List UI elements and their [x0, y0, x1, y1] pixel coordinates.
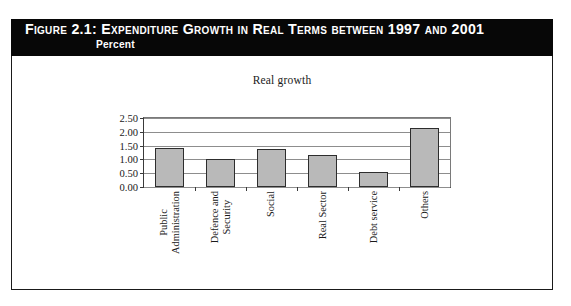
figure-root: Figure 2.1: Expenditure Growth in Real T…	[0, 0, 571, 306]
x-axis-label-slot: Defence andSecurity	[194, 189, 245, 289]
x-axis-label-slot: PublicAdministration	[143, 189, 194, 289]
x-axis-label-line: Real Sector	[317, 191, 328, 239]
chart-title: Real growth	[11, 74, 553, 86]
bar[interactable]	[206, 159, 235, 187]
y-axis-tick-label: 2.50	[119, 113, 138, 124]
plot-area: 0.000.501.001.502.002.50	[143, 117, 451, 188]
chart-area: Real growth 0.000.501.001.502.002.50 Pub…	[11, 56, 553, 290]
x-axis-label-line: Debt service	[368, 191, 379, 243]
x-axis-label: Defence andSecurity	[208, 191, 231, 243]
y-axis-tick-label: 1.50	[119, 140, 138, 151]
bar-slot	[246, 118, 297, 187]
bar-slot	[399, 118, 450, 187]
bar-slot	[195, 118, 246, 187]
x-axis-label-line: Social	[266, 191, 277, 217]
y-axis-tick-label: 0.00	[119, 182, 138, 193]
x-axis-label-slot: Debt service	[348, 189, 399, 289]
bar-slot	[144, 118, 195, 187]
bars-group	[144, 118, 450, 187]
x-axis-label-line: Defence and	[208, 191, 219, 243]
y-axis-tick-label: 2.00	[119, 126, 138, 137]
x-axis-label-line: Security	[220, 191, 232, 243]
x-axis-label: Others	[420, 191, 432, 219]
bar[interactable]	[257, 149, 286, 187]
y-axis-tick-label: 0.50	[119, 168, 138, 179]
x-axis-label-line: Administration	[169, 191, 181, 254]
bar[interactable]	[308, 155, 337, 187]
bar[interactable]	[410, 128, 439, 187]
x-axis-label-slot: Real Sector	[297, 189, 348, 289]
y-axis-tick-label: 1.00	[119, 154, 138, 165]
x-axis-label: Debt service	[368, 191, 380, 243]
x-axis-label-slot: Others	[400, 189, 451, 289]
figure-banner: Figure 2.1: Expenditure Growth in Real T…	[11, 19, 553, 56]
x-axis-label-line: Public	[157, 209, 168, 236]
x-axis-label: Social	[266, 191, 278, 217]
bar-slot	[297, 118, 348, 187]
bar[interactable]	[359, 172, 388, 187]
bar[interactable]	[155, 148, 184, 187]
x-axis-label: Real Sector	[317, 191, 329, 239]
x-axis-labels-group: PublicAdministrationDefence andSecurityS…	[143, 189, 451, 289]
y-axis-tick-mark	[140, 187, 144, 188]
x-axis-label-slot: Social	[246, 189, 297, 289]
figure-banner-subtitle: Percent	[96, 39, 135, 50]
figure-banner-title: Figure 2.1: Expenditure Growth in Real T…	[25, 21, 484, 37]
bar-slot	[348, 118, 399, 187]
x-axis-label-line: Others	[420, 191, 431, 219]
x-axis-label: PublicAdministration	[157, 191, 180, 254]
